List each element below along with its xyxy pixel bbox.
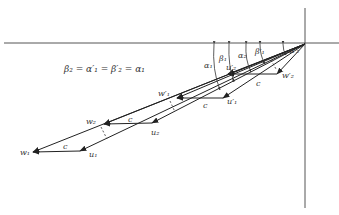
- label-c-1-prime: c: [203, 101, 208, 110]
- label-alpha2: α₂: [238, 51, 247, 60]
- label-u1: u₁: [89, 150, 97, 159]
- label-u1-prime: u′₁: [227, 97, 237, 106]
- label-c-2-prime: c: [256, 79, 261, 88]
- label-beta1-prime: β′₁: [254, 47, 265, 56]
- label-c-2: c: [128, 115, 133, 124]
- label-w2: w₂: [86, 117, 96, 126]
- label-alpha1: α₁: [204, 61, 213, 70]
- label-w2-prime: w′₂: [282, 71, 294, 80]
- label-alpha2-prime: α′₂: [289, 46, 299, 55]
- label-c-1: c: [63, 142, 68, 151]
- velocity-vectors: [33, 44, 305, 152]
- vector-u2: [152, 44, 305, 123]
- equation-label: β₂ = α′₁ = β′₂ = α₁: [63, 64, 145, 74]
- velocity-triangle-diagram: β₂ = α′₁ = β′₂ = α₁ w₁ u₁ c w₂ u₂ c w′₁ …: [0, 0, 339, 215]
- label-u2: u₂: [151, 128, 159, 137]
- label-w1-prime: w′₁: [158, 89, 170, 98]
- label-beta1: β₁: [218, 54, 227, 63]
- arc-alpha1: [214, 44, 220, 90]
- label-w1: w₁: [20, 148, 30, 157]
- vector-c-1: [33, 151, 80, 152]
- label-u2-prime: u′₂: [226, 63, 236, 72]
